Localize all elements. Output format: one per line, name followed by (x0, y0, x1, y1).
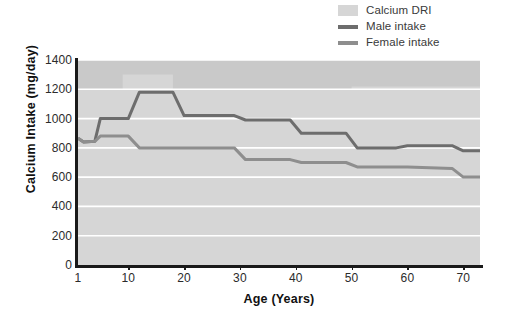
y-tick-label-200: 200 (30, 229, 72, 243)
x-axis-title: Age (Years) (78, 292, 480, 306)
x-tick-mark-70 (463, 265, 465, 270)
x-tick-mark-10 (128, 265, 130, 270)
x-tick-label-40: 40 (289, 271, 303, 285)
x-tick-mark-40 (296, 265, 298, 270)
x-axis-tick-labels: 110203040506070 (0, 271, 505, 287)
legend-item-male-intake: Male intake (338, 20, 440, 33)
x-tick-mark-60 (407, 265, 409, 270)
x-tick-label-10: 10 (122, 271, 136, 285)
legend-item-female-intake: Female intake (338, 36, 440, 49)
x-tick-label-60: 60 (401, 271, 415, 285)
legend-label-calcium-dri: Calcium DRI (366, 4, 432, 17)
chart-legend: Calcium DRI Male intake Female intake (338, 4, 440, 49)
legend-label-female-intake: Female intake (366, 36, 440, 49)
legend-swatch-calcium-dri (338, 5, 358, 16)
x-tick-mark-30 (240, 265, 242, 270)
y-axis-line (75, 58, 78, 267)
plot-svg (78, 60, 480, 265)
y-tick-label-0: 0 (30, 258, 72, 272)
x-tick-mark-20 (184, 265, 186, 270)
legend-item-calcium-dri: Calcium DRI (338, 4, 440, 17)
legend-swatch-male-intake (338, 25, 358, 29)
x-tick-label-20: 20 (177, 271, 191, 285)
x-axis-line (75, 265, 483, 268)
x-tick-label-70: 70 (457, 271, 471, 285)
x-tick-label-30: 30 (233, 271, 247, 285)
x-tick-label-1: 1 (75, 271, 82, 285)
plot-area-wrapper (78, 60, 480, 265)
legend-swatch-female-intake (338, 41, 358, 45)
plot-area (78, 60, 480, 265)
x-tick-mark-50 (352, 265, 354, 270)
y-axis-title: Calcium Intake (mg/day) (24, 14, 38, 224)
calcium-intake-chart: Calcium DRI Male intake Female intake 02… (0, 0, 505, 320)
x-tick-label-50: 50 (345, 271, 359, 285)
legend-label-male-intake: Male intake (366, 20, 426, 33)
